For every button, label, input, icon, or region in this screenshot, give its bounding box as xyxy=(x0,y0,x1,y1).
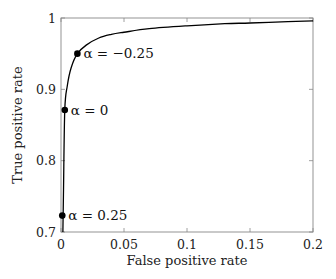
alpha-annotation: α = 0.25 xyxy=(68,207,127,223)
roc-chart: 00.050.10.150.20.70.80.91 α = 0.25α = 0α… xyxy=(0,0,336,279)
y-tick-label: 0.8 xyxy=(36,153,56,168)
x-axis-title: False positive rate xyxy=(127,253,248,268)
x-tick-label: 0.2 xyxy=(303,237,323,252)
x-tick-label: 0.05 xyxy=(110,237,138,252)
alpha-marker xyxy=(59,212,66,219)
x-tick-label: 0 xyxy=(57,237,65,252)
alpha-annotation: α = −0.25 xyxy=(83,45,153,61)
alpha-marker xyxy=(74,50,81,57)
x-tick-label: 0.1 xyxy=(177,237,197,252)
x-tick-label: 0.15 xyxy=(236,237,264,252)
alpha-marker xyxy=(61,107,68,114)
y-axis-title: True positive rate xyxy=(10,66,25,184)
y-tick-label: 0.9 xyxy=(36,82,56,97)
alpha-markers: α = 0.25α = 0α = −0.25 xyxy=(59,45,154,223)
y-tick-label: 0.7 xyxy=(36,225,56,240)
y-tick-label: 1 xyxy=(48,11,56,26)
alpha-annotation: α = 0 xyxy=(71,102,109,118)
